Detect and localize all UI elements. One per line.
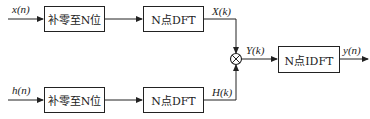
signal-H-label: H(k) bbox=[212, 86, 232, 98]
signal-Y-label: Y(k) bbox=[246, 44, 264, 56]
idft-block: N点IDFT bbox=[278, 46, 340, 73]
multiplier-icon bbox=[231, 54, 242, 65]
signal-X-label: X(k) bbox=[212, 5, 231, 17]
zero-pad-block-top: 补零至N位 bbox=[44, 6, 105, 32]
input-x-label: x(n) bbox=[12, 3, 30, 15]
output-y-label: y(n) bbox=[343, 44, 361, 56]
dft-block-bottom: N点DFT bbox=[143, 87, 204, 113]
dft-block-top: N点DFT bbox=[143, 6, 204, 32]
input-h-label: h(n) bbox=[12, 84, 30, 96]
zero-pad-block-bottom: 补零至N位 bbox=[44, 87, 105, 113]
block-diagram: x(n) h(n) 补零至N位 N点DFT 补零至N位 N点DFT N点IDFT… bbox=[0, 0, 370, 119]
